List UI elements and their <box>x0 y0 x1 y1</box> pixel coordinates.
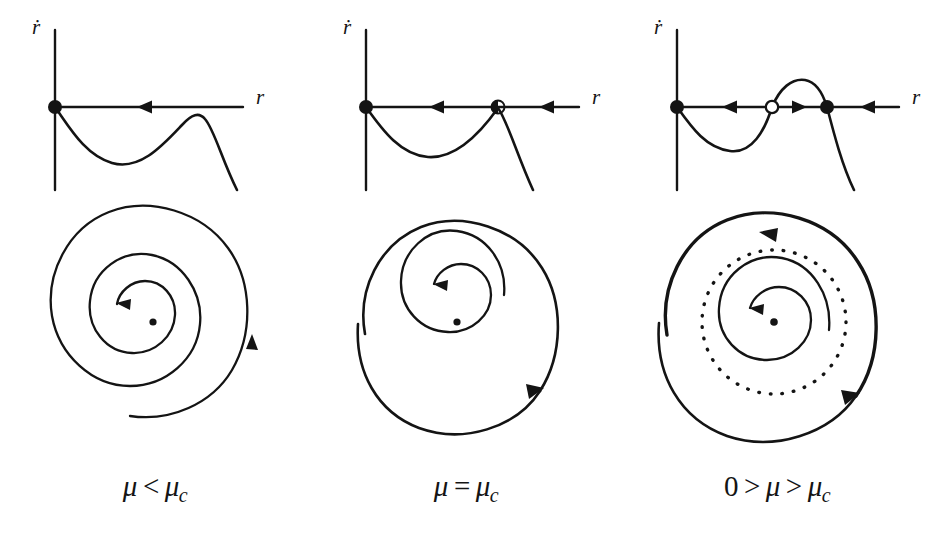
caption-zero: 0 <box>724 470 739 502</box>
portrait-center-point <box>770 318 778 326</box>
bifurcation-figure: ṙ r μ<μc <box>0 0 933 547</box>
portrait-center-point <box>453 318 460 325</box>
caption-lhs: μ <box>766 470 781 502</box>
rdot-curve <box>366 107 533 190</box>
caption-rhs: μ <box>165 470 180 502</box>
semistable-limit-cycle <box>363 221 558 391</box>
rdot-curve <box>55 107 237 190</box>
phase-portrait-1 <box>51 206 258 417</box>
caption-rhs-subscript: c <box>822 484 831 506</box>
panel-mu-less-than-mu-c: ṙ r μ<μc <box>0 0 311 547</box>
outer-incoming-arc <box>659 323 856 442</box>
flow-arrow-left-outer <box>539 101 554 114</box>
panel-2-graphics: ṙ r <box>311 0 622 470</box>
flow-arrow-left-inner <box>722 101 737 114</box>
fixed-point-stable-origin <box>48 100 62 114</box>
inner-spiral <box>401 231 504 332</box>
stable-limit-cycle <box>665 213 876 396</box>
portrait-center-point <box>149 318 156 325</box>
horizontal-axis-label: r <box>256 85 265 109</box>
vertical-axis-label: ṙ <box>654 15 663 39</box>
inward-spiral <box>51 206 248 417</box>
caption-relation: < <box>143 470 160 502</box>
caption-lhs: μ <box>123 470 138 502</box>
caption-rhs-subscript: c <box>179 484 188 506</box>
fixed-point-stable-origin <box>670 100 684 114</box>
panel-1-graphics: ṙ r <box>0 0 311 470</box>
panel-3-graphics: ṙ r <box>622 0 933 470</box>
phase-portrait-3 <box>659 213 877 442</box>
caption-rhs: μ <box>476 470 491 502</box>
flow-arrow-left-inner <box>429 101 444 114</box>
fixed-point-unstable <box>766 101 778 113</box>
panel-2-caption: μ=μc <box>311 470 622 507</box>
caption-rhs: μ <box>808 470 823 502</box>
inner-spiral <box>719 257 829 360</box>
horizontal-axis-label: r <box>592 85 601 109</box>
panel-zero-greater-mu-greater-mu-c: ṙ r 0>μ>μc <box>622 0 933 547</box>
panel-1-caption: μ<μc <box>0 470 311 507</box>
caption-relation-1: > <box>744 470 761 502</box>
outer-spiral-arrowhead <box>246 334 258 350</box>
panel-3-caption: 0>μ>μc <box>622 470 933 507</box>
stable-limit-cycle-arrowhead <box>759 228 778 242</box>
panel-mu-equals-mu-c: ṙ r μ=μc <box>311 0 622 547</box>
flow-arrow-left <box>137 101 152 114</box>
caption-lhs: μ <box>434 470 449 502</box>
horizontal-axis-label: r <box>912 85 921 109</box>
rdot-curve <box>677 80 854 190</box>
caption-relation: = <box>454 470 471 502</box>
outer-incoming-arc <box>358 324 540 434</box>
phase-portrait-2 <box>358 221 558 434</box>
vertical-axis-label: ṙ <box>32 15 41 39</box>
flow-arrow-left-outer <box>860 101 875 114</box>
fixed-point-stable-origin <box>359 100 373 114</box>
flow-arrow-right-middle <box>792 101 807 114</box>
caption-rhs-subscript: c <box>490 484 499 506</box>
fixed-point-stable-outer <box>820 100 834 114</box>
caption-relation-2: > <box>786 470 803 502</box>
vertical-axis-label: ṙ <box>343 15 352 39</box>
